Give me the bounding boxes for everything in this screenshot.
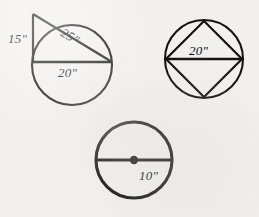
figure-2-label-diagonal: 20" <box>189 43 208 58</box>
figure-3-circle-with-diameter: 10" <box>96 122 172 198</box>
geometry-figure-sheet: 15" 25" 20" 20" 10" <box>0 0 259 217</box>
figure-3-center-dot <box>130 156 138 164</box>
figure-1-circle-with-right-triangle: 15" 25" 20" <box>8 14 112 105</box>
figure-1-label-hypotenuse: 25" <box>58 25 82 48</box>
figure-3-label-measure: 10" <box>139 168 158 183</box>
figure-1-label-vertical-leg: 15" <box>8 31 27 46</box>
figures-canvas: 15" 25" 20" 20" 10" <box>0 0 259 217</box>
figure-1-label-horizontal-leg: 20" <box>58 65 77 80</box>
figure-2-circle-with-inscribed-square: 20" <box>165 20 243 98</box>
